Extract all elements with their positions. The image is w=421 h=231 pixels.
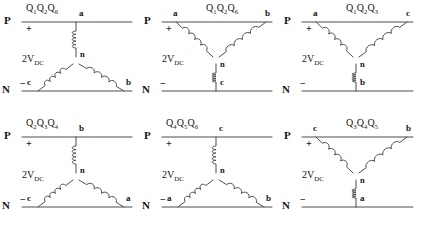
negative-rail-label: N [282, 200, 290, 211]
positive-polarity-sign: + [306, 24, 312, 34]
neutral-node-label: n [360, 176, 365, 185]
negative-rail-label: N [2, 200, 10, 211]
neutral-node-label: n [80, 166, 85, 175]
positive-rail-label: P [4, 130, 11, 141]
neutral-node-label: n [360, 60, 365, 69]
coil-right-phase [79, 180, 124, 207]
negative-rail-label: N [2, 84, 10, 95]
dc-voltage-label: 2VDC [162, 170, 184, 183]
switching-state-label: Q1Q2Q6 [26, 3, 58, 16]
coil-right-phase [359, 22, 407, 57]
terminal-bottom-label: b [360, 78, 365, 87]
positive-rail-label: P [284, 130, 291, 141]
terminal-top-left-label: a [313, 9, 318, 18]
terminal-top-left-label: a [173, 9, 178, 18]
terminal-bottom-right-label: a [126, 194, 131, 203]
positive-polarity-sign: + [166, 139, 172, 149]
positive-polarity-sign: + [26, 139, 32, 149]
panel-5: cabnQ4Q5Q6P+N−2VDC [140, 115, 280, 231]
terminal-bottom-left-label: c [27, 78, 31, 87]
terminal-top-label: c [219, 124, 223, 133]
panel-3: acbnQ1Q2Q3P+N−2VDC [280, 0, 421, 115]
terminal-bottom-left-label: a [167, 194, 172, 203]
negative-rail-label: N [142, 84, 150, 95]
switching-state-label: Q1Q2Q3 [346, 3, 378, 16]
diagram-grid: acbnQ1Q2Q6P+N−2VDCabcnQ1Q2Q6P+N−2VDCacbn… [0, 0, 421, 231]
dc-voltage-label: 2VDC [302, 54, 324, 67]
positive-rail-label: P [144, 130, 151, 141]
terminal-top-left-label: c [313, 124, 317, 133]
neutral-node-label: n [220, 60, 225, 69]
negative-rail-label: N [282, 84, 290, 95]
panel-4: bcanQ2Q3Q4P+N−2VDC [0, 115, 140, 231]
terminal-bottom-label: a [360, 194, 365, 203]
positive-rail-label: P [284, 15, 291, 26]
coil-bottom-phase [352, 180, 356, 207]
panel-2: abcnQ1Q2Q6P+N−2VDC [140, 0, 280, 115]
terminal-top-label: a [79, 9, 84, 18]
negative-polarity-sign: − [160, 195, 166, 205]
coil-top-phase [72, 137, 76, 173]
coil-bottom-phase [352, 64, 356, 91]
terminal-top-label: b [79, 124, 84, 133]
positive-polarity-sign: + [306, 139, 312, 149]
positive-rail-label: P [144, 15, 151, 26]
coil-left-phase [316, 22, 353, 57]
coil-right-phase [219, 22, 266, 57]
switching-state-label: Q1Q2Q6 [206, 3, 238, 16]
coil-left-phase [178, 180, 213, 207]
negative-polarity-sign: − [300, 195, 306, 205]
coil-right-phase [219, 180, 264, 207]
terminal-bottom-left-label: c [27, 194, 31, 203]
terminal-bottom-right-label: b [126, 78, 131, 87]
switching-state-label: Q4Q5Q6 [166, 118, 198, 131]
terminal-top-right-label: b [265, 9, 270, 18]
neutral-node-label: n [80, 50, 85, 59]
coil-left-phase [38, 180, 73, 207]
terminal-bottom-right-label: b [266, 194, 271, 203]
coil-bottom-phase [212, 64, 216, 91]
dc-voltage-label: 2VDC [162, 54, 184, 67]
coil-top-phase [72, 22, 76, 57]
negative-polarity-sign: − [20, 79, 26, 89]
coil-right-phase [359, 137, 407, 173]
coil-left-phase [316, 137, 353, 173]
panel-6: cbanQ3Q4Q5P+N−2VDC [280, 115, 421, 231]
coil-left-phase [38, 64, 73, 91]
positive-polarity-sign: + [26, 24, 32, 34]
coil-right-phase [79, 64, 124, 91]
panel-1: acbnQ1Q2Q6P+N−2VDC [0, 0, 140, 115]
dc-voltage-label: 2VDC [22, 54, 44, 67]
terminal-top-right-label: c [406, 9, 410, 18]
terminal-top-right-label: b [406, 124, 411, 133]
switching-state-label: Q3Q4Q5 [346, 118, 378, 131]
positive-rail-label: P [4, 15, 11, 26]
positive-polarity-sign: + [166, 24, 172, 34]
dc-voltage-label: 2VDC [22, 170, 44, 183]
neutral-node-label: n [220, 166, 225, 175]
negative-polarity-sign: − [20, 195, 26, 205]
negative-polarity-sign: − [300, 79, 306, 89]
negative-rail-label: N [142, 200, 150, 211]
negative-polarity-sign: − [160, 79, 166, 89]
terminal-bottom-label: c [220, 78, 224, 87]
coil-left-phase [176, 22, 213, 57]
switching-state-label: Q2Q3Q4 [26, 118, 58, 131]
dc-voltage-label: 2VDC [302, 170, 324, 183]
coil-top-phase [212, 137, 216, 173]
